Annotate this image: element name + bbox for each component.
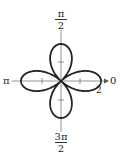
label-pi-over-2: π 2: [51, 8, 71, 31]
label-zero: 0: [110, 76, 116, 86]
denominator: 2: [51, 143, 71, 154]
numerator: 3π: [51, 131, 71, 142]
denominator: 2: [51, 20, 71, 31]
arrow-icon: [104, 79, 109, 84]
label-pi: π: [3, 76, 10, 86]
numerator: π: [51, 8, 71, 19]
label-3pi-over-2: 3π 2: [51, 131, 71, 154]
label-radius-2: 2: [96, 86, 102, 95]
